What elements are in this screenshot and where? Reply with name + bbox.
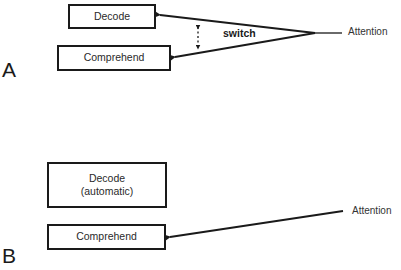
- attention-label-b: Attention: [352, 205, 391, 216]
- decode-label-a: Decode: [94, 10, 130, 23]
- comprehend-label-b: Comprehend: [76, 230, 137, 243]
- comprehend-box-a: Comprehend: [57, 45, 171, 71]
- panel-letter-b: B: [2, 244, 16, 268]
- decode-box-a: Decode: [68, 4, 156, 29]
- arrow-to-comprehend-b: [170, 211, 343, 237]
- switch-label: switch: [223, 27, 256, 39]
- decode-box-b: Decode (automatic): [47, 162, 167, 208]
- comprehend-label-a: Comprehend: [84, 51, 145, 64]
- decode-automatic-label-b: (automatic): [81, 185, 134, 198]
- attention-label-a: Attention: [348, 26, 387, 37]
- comprehend-box-b: Comprehend: [47, 224, 166, 250]
- decode-label-b: Decode: [89, 172, 125, 185]
- panel-letter-a: A: [2, 58, 16, 82]
